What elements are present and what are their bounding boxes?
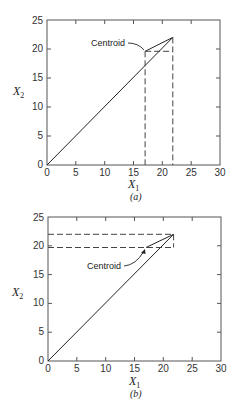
x-tick-5: 5 (73, 167, 79, 178)
x-tick-0: 0 (44, 167, 50, 178)
panel-caption: (a) (130, 191, 142, 203)
y-tick-10: 10 (32, 101, 44, 112)
x-tick-25: 25 (187, 363, 199, 374)
y-tick-15: 15 (33, 269, 45, 280)
x-tick-30: 30 (214, 167, 226, 178)
chart-panel-b: 0 5 10 15 20 25 30 0 5 10 15 20 25 X1 X2… (0, 205, 241, 416)
tick-marks (47, 20, 220, 165)
y-tick-5: 5 (37, 130, 43, 141)
arrowhead-icon (141, 249, 146, 254)
chart-a-svg: 0 5 10 15 20 25 30 0 5 10 15 20 25 X1 X2… (0, 0, 241, 205)
x-tick-10: 10 (99, 167, 111, 178)
centroid-label: Centroid (91, 38, 125, 48)
vector-to-point (47, 37, 173, 165)
triangle-top-edge (145, 37, 173, 51)
y-tick-25: 25 (33, 212, 45, 223)
chart-b-svg: 0 5 10 15 20 25 30 0 5 10 15 20 25 X1 X2… (0, 205, 241, 416)
plot-frame (47, 20, 220, 165)
y-tick-20: 20 (33, 240, 45, 251)
centroid-label: Centroid (87, 261, 121, 271)
plot-frame (48, 217, 221, 361)
x-tick-25: 25 (186, 167, 198, 178)
tick-marks (48, 217, 221, 361)
triangle-top-edge (146, 234, 174, 247)
x-tick-10: 10 (100, 363, 112, 374)
y-tick-0: 0 (38, 355, 44, 366)
y-axis-title: X2 (12, 84, 24, 100)
y-tick-15: 15 (32, 72, 44, 83)
y-tick-25: 25 (32, 15, 44, 26)
data-lines (47, 37, 173, 165)
x-tick-5: 5 (74, 363, 80, 374)
centroid-arrow-icon (124, 251, 144, 266)
vector-to-point (48, 234, 174, 361)
chart-panel-a: 0 5 10 15 20 25 30 0 5 10 15 20 25 X1 X2… (0, 0, 241, 205)
y-tick-10: 10 (33, 297, 45, 308)
dashed-guides (48, 234, 174, 247)
x-tick-15: 15 (129, 363, 141, 374)
x-tick-20: 20 (158, 363, 170, 374)
data-lines (48, 234, 174, 361)
x-tick-30: 30 (215, 363, 227, 374)
x-tick-0: 0 (45, 363, 51, 374)
panel-caption: (b) (130, 388, 142, 400)
centroid-arrow-icon (128, 43, 144, 50)
vector-to-centroid (47, 51, 145, 165)
dashed-guides (145, 37, 173, 165)
y-tick-0: 0 (37, 159, 43, 170)
y-tick-20: 20 (32, 43, 44, 54)
y-tick-5: 5 (38, 326, 44, 337)
y-axis-title: X2 (11, 285, 23, 301)
x-tick-20: 20 (157, 167, 169, 178)
